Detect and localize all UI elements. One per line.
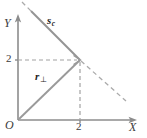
y-axis-label: Y (4, 17, 11, 29)
sc-ray-solid (31, 11, 80, 60)
r-perp-vector-label-subscript: ⊥ (40, 75, 47, 84)
sc-vector-label-subscript: c (52, 19, 55, 28)
origin-label: O (5, 119, 14, 131)
diagram-canvas (0, 0, 147, 138)
sc-vector-label: sc (47, 15, 55, 28)
x-axis-label: X (129, 121, 136, 133)
sc-vector-label-base: s (47, 14, 51, 26)
r-perp-vector-label-base: r (35, 70, 39, 82)
sc-ray-dashed-lower (81, 61, 126, 101)
r-perp-vector (19, 60, 80, 119)
y-axis-tick-label-2: 2 (6, 53, 12, 64)
r-perp-vector-label: r⊥ (35, 71, 47, 84)
vector-diagram-figure: Y X O 2 2 sc r⊥ (0, 0, 147, 138)
x-axis-tick-label-2: 2 (76, 121, 82, 132)
